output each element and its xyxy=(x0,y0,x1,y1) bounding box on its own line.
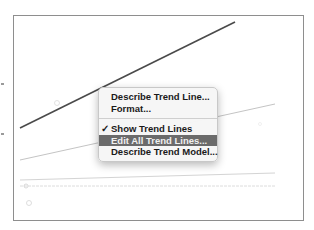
menu-item-label: Edit All Trend Lines... xyxy=(111,135,207,146)
menu-item-label: Format... xyxy=(111,103,151,114)
menu-item-label: Describe Trend Model... xyxy=(111,146,218,157)
data-point-marker[interactable] xyxy=(27,201,32,206)
menu-item-format[interactable]: Format... xyxy=(99,103,217,115)
menu-separator xyxy=(99,118,217,119)
menu-item-show-trend-lines[interactable]: ✓ Show Trend Lines xyxy=(99,123,217,135)
menu-item-edit-all-trend-lines[interactable]: Edit All Trend Lines... xyxy=(99,135,217,147)
trend-line-faint-upper[interactable] xyxy=(20,173,275,180)
checkmark-icon: ✓ xyxy=(101,123,109,135)
trend-line-context-menu: Describe Trend Line... Format... ✓ Show … xyxy=(98,87,218,162)
menu-item-describe-trend-model[interactable]: Describe Trend Model... xyxy=(99,146,217,158)
menu-item-label: Describe Trend Line... xyxy=(111,91,210,102)
menu-item-label: Show Trend Lines xyxy=(111,123,192,134)
data-point-marker[interactable] xyxy=(55,101,60,106)
data-point-marker[interactable] xyxy=(259,123,262,126)
chart-view: Describe Trend Line... Format... ✓ Show … xyxy=(0,0,314,230)
menu-item-describe-trend-line[interactable]: Describe Trend Line... xyxy=(99,91,217,103)
